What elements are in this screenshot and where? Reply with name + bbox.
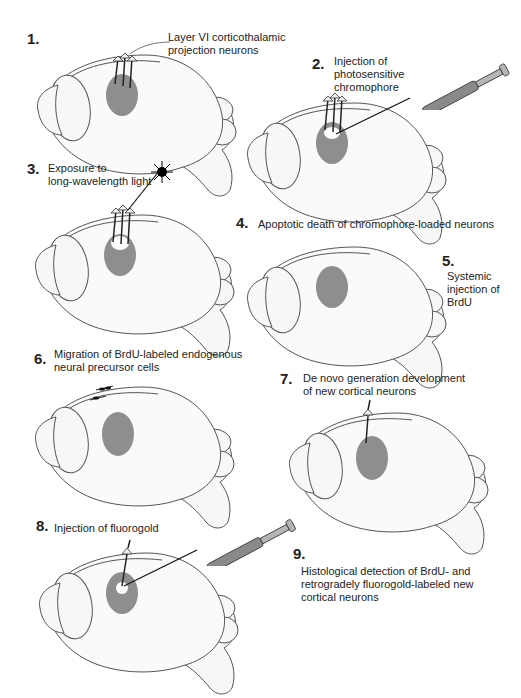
target-cortex-area xyxy=(106,74,138,116)
step-4-label: Apoptotic death of chromophore-loaded ne… xyxy=(258,218,494,231)
step-5-number: 5. xyxy=(442,252,455,269)
brain-diagram-3 xyxy=(28,200,238,360)
step-4-number: 4. xyxy=(236,214,249,231)
step-7-number: 7. xyxy=(280,370,293,387)
syringe-icon xyxy=(188,486,328,566)
syringe-icon xyxy=(405,40,521,110)
step-6-number: 6. xyxy=(34,350,47,367)
step-7-label: De novo generation development of new co… xyxy=(303,372,465,398)
step-6-label: Migration of BrdU-labeled endogenous neu… xyxy=(54,348,242,374)
step-3-number: 3. xyxy=(27,160,40,177)
step-9-label: Histological detection of BrdU- and retr… xyxy=(301,565,473,604)
brain-diagram-4 xyxy=(240,232,450,392)
step-8-number: 8. xyxy=(36,517,49,534)
step-5-label: Systemic injection of BrdU xyxy=(447,270,500,309)
light-source-icon xyxy=(150,160,174,184)
step-8-label: Injection of fluorogold xyxy=(54,522,159,535)
step-2-number: 2. xyxy=(312,55,325,72)
step-9-number: 9. xyxy=(293,545,306,562)
step-3-label: Exposure to long-wavelength light xyxy=(48,162,151,188)
